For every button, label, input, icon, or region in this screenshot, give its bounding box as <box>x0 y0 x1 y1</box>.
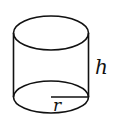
top-ellipse <box>14 16 89 50</box>
cylinder-diagram: h r <box>0 0 123 121</box>
radius-label: r <box>53 95 62 115</box>
height-label: h <box>95 55 108 79</box>
